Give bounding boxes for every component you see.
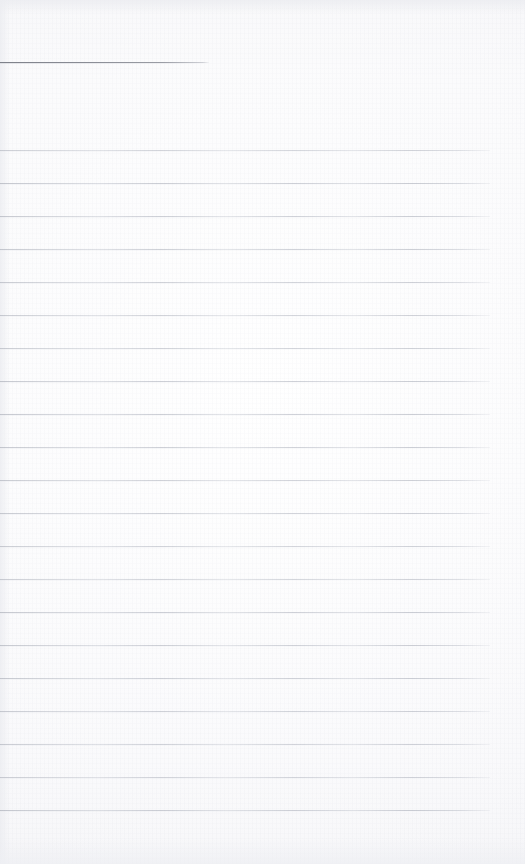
ruled-line	[0, 579, 490, 580]
scanned-page	[0, 0, 525, 864]
scan-edge-shadow-top	[0, 0, 525, 14]
scan-edge-shadow-left	[0, 0, 10, 864]
ruled-line	[0, 546, 490, 547]
ruled-line	[0, 414, 490, 415]
ruled-line	[0, 348, 490, 349]
ruled-line	[0, 711, 490, 712]
ruled-line	[0, 282, 490, 283]
ruled-line	[0, 249, 490, 250]
ruled-line	[0, 150, 490, 151]
ruled-line	[0, 810, 490, 811]
ruled-line	[0, 513, 490, 514]
paper-background	[0, 0, 525, 864]
ruled-line	[0, 777, 490, 778]
heading-rule	[0, 62, 209, 63]
ruled-line	[0, 315, 490, 316]
ruled-line	[0, 480, 490, 481]
scan-edge-shadow-bottom	[0, 838, 525, 864]
scan-noise-overlay	[0, 0, 525, 864]
ruled-line	[0, 744, 490, 745]
ruled-line	[0, 645, 490, 646]
ruled-line	[0, 612, 490, 613]
ruled-line	[0, 183, 490, 184]
ruled-line	[0, 447, 490, 448]
ruled-line	[0, 216, 490, 217]
ruled-line	[0, 678, 490, 679]
ruled-line	[0, 381, 490, 382]
